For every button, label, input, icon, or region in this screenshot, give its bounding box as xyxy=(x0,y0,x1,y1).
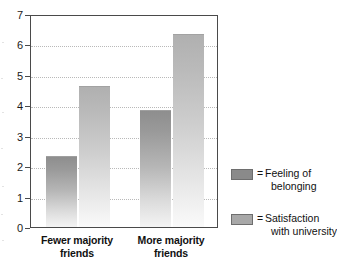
bar xyxy=(140,110,171,227)
y-tick-label: 6 xyxy=(17,40,23,51)
legend-equals-sign: = xyxy=(257,212,263,225)
y-tick-label: 2 xyxy=(17,162,23,173)
legend-equals-sign: = xyxy=(257,167,263,180)
y-tick-mark xyxy=(25,228,30,229)
y-tick-label: 0 xyxy=(17,223,23,234)
bar xyxy=(79,86,110,227)
legend-label-line: with university xyxy=(265,225,337,238)
legend: =Feeling ofbelonging=Satisfactionwith un… xyxy=(231,168,335,258)
legend-label-line: belonging xyxy=(265,180,337,193)
legend-swatch xyxy=(231,169,253,180)
x-axis-category-label-line: More majority xyxy=(116,234,226,247)
y-tick-label: 4 xyxy=(17,101,23,112)
bars-group xyxy=(31,16,217,227)
plot-area xyxy=(30,15,218,228)
legend-item: =Satisfactionwith university xyxy=(231,213,335,243)
legend-item: =Feeling ofbelonging xyxy=(231,168,335,198)
bar xyxy=(173,34,204,227)
y-tick-label: 1 xyxy=(17,192,23,203)
legend-label: Satisfactionwith university xyxy=(265,212,337,238)
x-axis-category-label: More majorityfriends xyxy=(116,234,226,259)
bar xyxy=(46,156,77,227)
legend-label-line: Satisfaction xyxy=(265,212,337,225)
y-tick-label: 3 xyxy=(17,131,23,142)
x-axis-category-label-line: friends xyxy=(116,247,226,260)
legend-label: Feeling ofbelonging xyxy=(265,167,337,193)
legend-label-line: Feeling of xyxy=(265,167,337,180)
legend-swatch xyxy=(231,214,253,225)
y-tick-label: 7 xyxy=(17,10,23,21)
y-tick-label: 5 xyxy=(17,70,23,81)
